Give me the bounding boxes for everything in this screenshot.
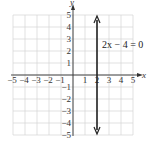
x-tick-label: −5 [7,75,17,85]
x-tick-label: 4 [119,75,124,85]
y-tick-label: 4 [67,22,72,32]
y-tick-label: −3 [61,106,71,116]
x-tick-labels: −5−4−3−2−112345 [7,75,136,85]
y-tick-label: 3 [67,34,72,44]
y-axis-label: y [69,0,74,7]
y-tick-label: −4 [61,118,71,128]
x-tick-label: 5 [131,75,136,85]
y-tick-label: −2 [61,94,71,104]
x-tick-label: 3 [107,75,112,85]
x-tick-label: 1 [83,75,88,85]
y-tick-label: 2 [67,46,72,56]
x-tick-label: −2 [43,75,53,85]
coordinate-plane: x y −5−4−3−2−112345 54321−1−2−3−4−5 2x −… [0,0,147,144]
y-tick-label: −1 [61,82,71,92]
equation-label: 2x − 4 = 0 [102,39,143,50]
y-tick-label: 1 [67,58,72,68]
y-tick-label: 5 [67,10,72,20]
y-tick-label: −5 [61,130,71,140]
x-tick-label: −4 [19,75,29,85]
x-tick-label: −3 [31,75,41,85]
x-axis-label: x [141,70,146,80]
